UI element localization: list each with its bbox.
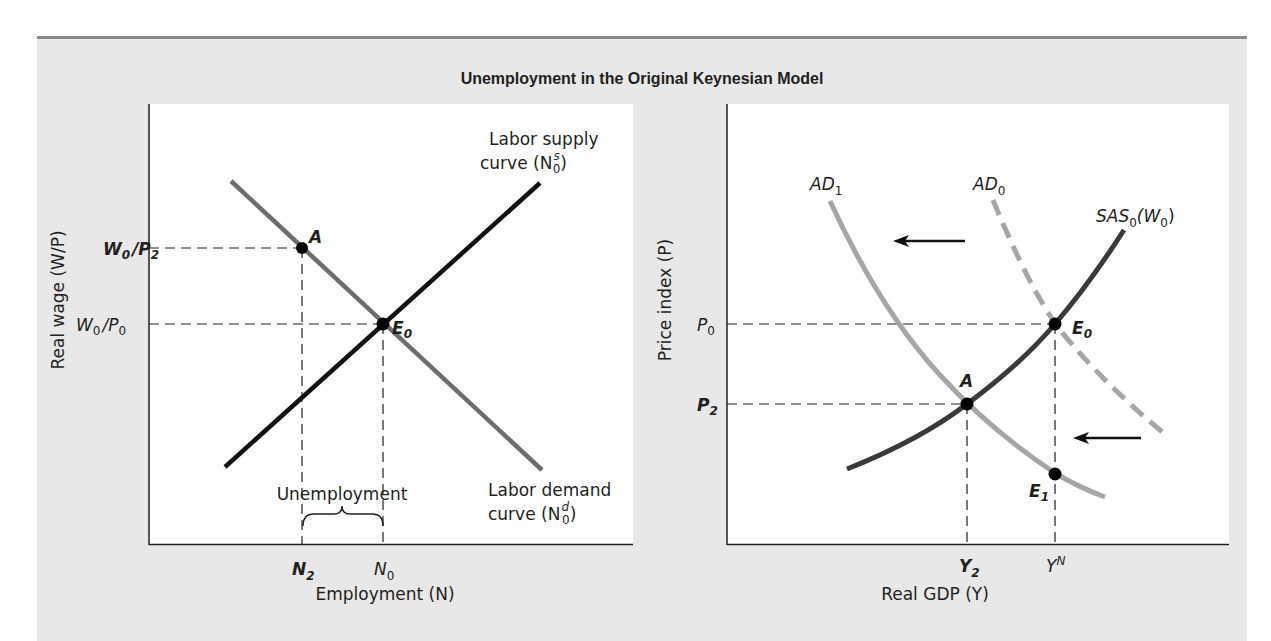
point-a-left: [296, 242, 308, 254]
figure-title: Unemployment in the Original Keynesian M…: [461, 70, 824, 87]
labor-demand-label-line2: curve (Nd0): [488, 500, 576, 527]
point-e1-right: [1049, 468, 1062, 481]
point-e0-left: [377, 318, 390, 331]
right-x-axis-title: Real GDP (Y): [881, 584, 989, 604]
left-y-axis-title: Real wage (W/P): [48, 230, 68, 369]
point-a-right: [961, 398, 974, 411]
label-a-right: A: [958, 371, 973, 391]
ad-as-chart: E0 A E1 AD1 AD0 SAS0(W0) P0 P2 Y2 YN Rea…: [655, 104, 1229, 604]
label-a-left: A: [307, 227, 322, 247]
point-e0-right: [1049, 318, 1062, 331]
right-plot-area: [727, 104, 1229, 545]
figure: Unemployment in the Original Keynesian M…: [0, 0, 1271, 641]
labor-supply-label-line2: curve (Ns0): [480, 149, 567, 176]
labor-demand-label-line1: Labor demand: [488, 480, 611, 500]
right-y-axis-title: Price index (P): [655, 239, 675, 361]
left-x-axis-title: Employment (N): [315, 584, 454, 604]
top-rule: [37, 36, 1247, 39]
unemployment-label: Unemployment: [277, 484, 408, 504]
labor-supply-label-line1: Labor supply: [489, 129, 598, 149]
